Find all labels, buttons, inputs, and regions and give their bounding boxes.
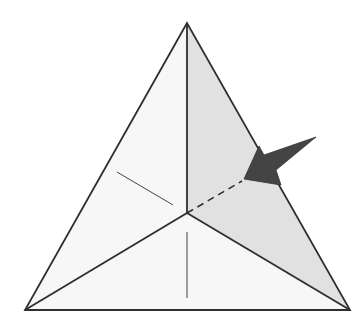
tetrahedron-fold-diagram	[0, 0, 361, 336]
diagram-canvas	[0, 0, 361, 336]
